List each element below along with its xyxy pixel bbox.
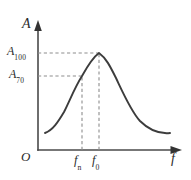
resonance-curve-figure: A f O A100 A70 fn f0 bbox=[0, 0, 191, 180]
y-tick-label-a-max: A100 bbox=[7, 45, 26, 57]
origin-label: O bbox=[21, 150, 30, 163]
x-tick-f-n-subscript: n bbox=[77, 163, 81, 172]
x-axis-label: f bbox=[171, 152, 175, 166]
y-tick-a-max-subscript: 100 bbox=[14, 53, 26, 62]
resonance-curve-path bbox=[45, 53, 170, 133]
x-tick-label-f-zero: f0 bbox=[92, 154, 100, 167]
x-tick-f-zero-subscript: 0 bbox=[95, 163, 99, 172]
y-axis-arrowhead bbox=[34, 20, 42, 31]
y-axis-label: A bbox=[22, 17, 31, 31]
y-tick-label-a-band: A70 bbox=[9, 68, 24, 80]
x-tick-label-f-n: fn bbox=[74, 154, 82, 167]
y-tick-a-band-subscript: 70 bbox=[16, 76, 24, 85]
